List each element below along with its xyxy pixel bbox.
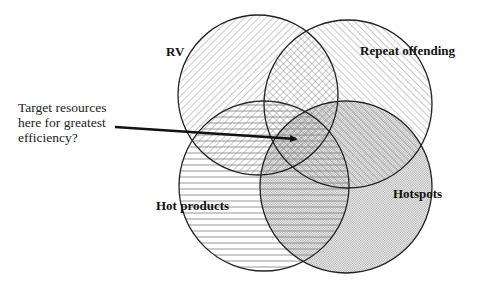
label-hotspots: Hotspots bbox=[393, 186, 442, 202]
annotation-line-3: efficiency? bbox=[18, 130, 106, 145]
rv-fill bbox=[178, 15, 338, 175]
label-hot-products: Hot products bbox=[156, 198, 229, 214]
annotation-text: Target resources here for greatest effic… bbox=[18, 100, 106, 145]
label-repeat-offending: Repeat offending bbox=[360, 43, 455, 59]
label-rv: RV bbox=[166, 44, 184, 60]
annotation-line-2: here for greatest bbox=[18, 115, 106, 130]
annotation-line-1: Target resources bbox=[18, 100, 106, 115]
